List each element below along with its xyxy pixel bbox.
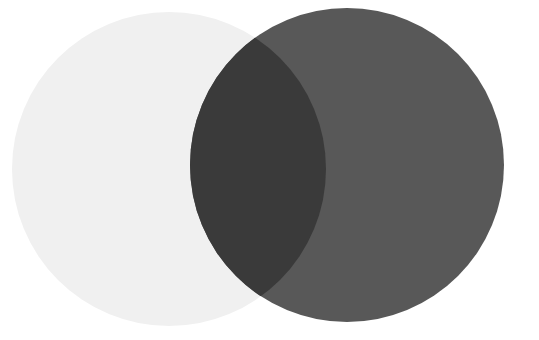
- venn-diagram-graphic: [0, 0, 539, 340]
- venn-diagram-canvas: or different.: [0, 0, 539, 340]
